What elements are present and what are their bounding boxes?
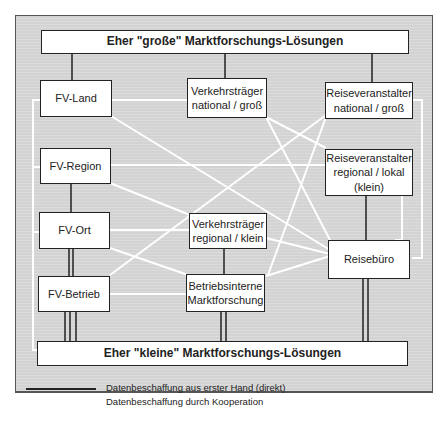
coop-fvort-betriebsintern bbox=[110, 248, 188, 275]
node-fv-ort: FV-Ort bbox=[39, 212, 110, 249]
node-reisebuero: Reisebüro bbox=[328, 240, 410, 279]
legend-cooperation-swatch bbox=[26, 402, 96, 404]
legend-direct-swatch bbox=[26, 388, 96, 390]
node-vt-national: Verkehrsträger national / groß bbox=[187, 78, 267, 118]
node-fv-land: FV-Land bbox=[40, 80, 112, 117]
legend-cooperation-label: Datenbeschaffung durch Kooperation bbox=[106, 396, 263, 407]
coop-fvregion-vtregional bbox=[110, 183, 190, 215]
node-fv-betrieb: FV-Betrieb bbox=[38, 276, 110, 312]
top-bar-large-solutions: Eher "große" Marktforschungs-Lösungen bbox=[41, 30, 409, 54]
legend-direct-label: Datenbeschaffung aus erster Hand (direkt… bbox=[106, 382, 285, 393]
bottom-bar-small-solutions: Eher "kleine" Marktforschungs-Lösungen bbox=[37, 341, 408, 366]
coop-betriebsintern-reisebuero bbox=[266, 256, 330, 276]
node-vt-regional: Verkehrsträger regional / klein bbox=[189, 213, 267, 249]
node-rv-regional: Reiseveranstalter regional / lokal (klei… bbox=[325, 149, 413, 196]
coop-right-bracket bbox=[412, 100, 422, 258]
node-fv-region: FV-Region bbox=[40, 148, 111, 184]
node-rv-national: Reiseveranstalter national / groß bbox=[325, 82, 413, 119]
node-betriebsintern: Betriebsinterne Marktforschung bbox=[186, 274, 265, 312]
